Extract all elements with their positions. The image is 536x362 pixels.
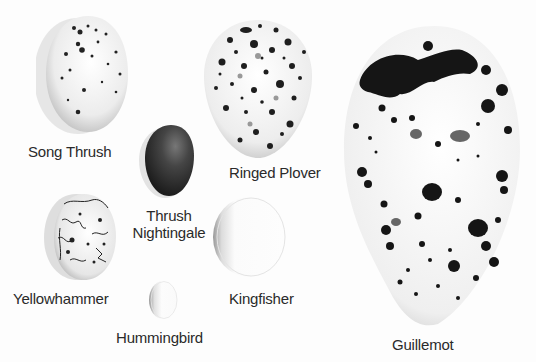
ringed-plover-egg xyxy=(196,16,320,162)
hummingbird-egg xyxy=(144,278,180,322)
song-thrush-label: Song Thrush xyxy=(28,143,111,160)
yellowhammer-label: Yellowhammer xyxy=(13,290,108,307)
thrush-nightingale-label: Thrush Nightingale xyxy=(126,207,212,241)
ringed-plover-label: Ringed Plover xyxy=(229,164,321,181)
hummingbird-label: Hummingbird xyxy=(116,329,203,346)
guillemot-egg xyxy=(338,20,524,330)
kingfisher-label: Kingfisher xyxy=(229,290,294,307)
kingfisher-egg xyxy=(208,194,288,280)
song-thrush-egg xyxy=(36,12,132,136)
yellowhammer-egg xyxy=(42,190,122,284)
guillemot-label: Guillemot xyxy=(392,336,454,353)
thrush-nightingale-label-line1: Thrush xyxy=(126,207,212,224)
thrush-nightingale-egg xyxy=(138,122,198,200)
thrush-nightingale-label-line2: Nightingale xyxy=(126,224,212,241)
